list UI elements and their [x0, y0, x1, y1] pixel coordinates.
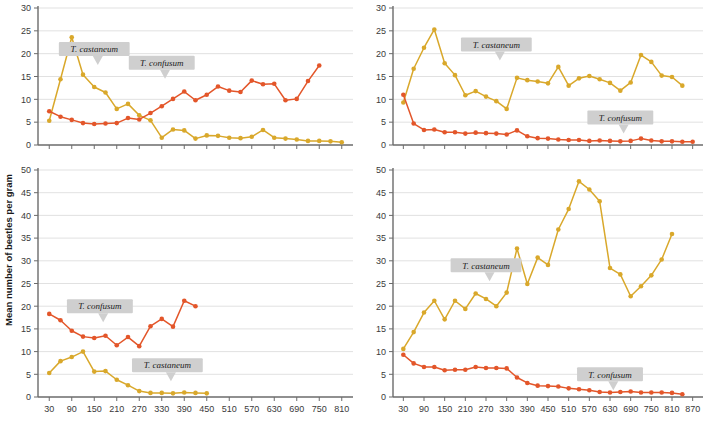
data-point — [504, 107, 509, 112]
x-tick-label: 390 — [177, 404, 192, 414]
data-point — [58, 359, 63, 364]
series-line-castaneum — [403, 29, 682, 108]
y-tick-label: 0 — [26, 392, 31, 402]
x-tick-label: 810 — [334, 404, 349, 414]
data-point — [587, 388, 592, 393]
data-point — [680, 140, 685, 145]
data-point — [649, 390, 654, 395]
data-point — [148, 324, 153, 329]
data-point — [453, 367, 458, 372]
y-tick-label: 30 — [376, 256, 386, 266]
data-point — [47, 119, 52, 124]
data-point — [577, 76, 582, 81]
data-point — [114, 343, 119, 348]
data-point — [92, 336, 97, 341]
data-point — [628, 139, 633, 144]
x-tick-label: 330 — [154, 404, 169, 414]
data-point — [47, 371, 52, 376]
data-point — [422, 365, 427, 370]
data-point — [577, 387, 582, 392]
data-point — [422, 310, 427, 315]
data-point — [422, 45, 427, 50]
y-tick-label: 20 — [376, 302, 386, 312]
data-point — [137, 117, 142, 122]
data-point — [216, 134, 221, 139]
data-point — [283, 98, 288, 103]
y-tick-label: 25 — [376, 279, 386, 289]
y-tick-label: 50 — [376, 165, 386, 175]
data-point — [261, 128, 266, 133]
data-point — [204, 92, 209, 97]
data-point — [484, 131, 489, 136]
data-point — [339, 140, 344, 145]
y-tick-label: 15 — [21, 72, 31, 82]
data-point — [546, 263, 551, 268]
data-point — [628, 294, 633, 299]
data-point — [126, 102, 131, 107]
data-point — [608, 266, 613, 271]
data-point — [597, 199, 602, 204]
data-point — [159, 317, 164, 322]
data-point — [148, 391, 153, 396]
y-tick-label: 0 — [26, 140, 31, 150]
annotation-callout-pointer — [495, 52, 505, 61]
data-point — [577, 138, 582, 143]
data-point — [670, 139, 675, 144]
data-point — [649, 60, 654, 65]
chart-panel-bottom-right: 0510152025303540455030901502102703303904… — [376, 165, 703, 414]
data-point — [193, 304, 198, 309]
data-point — [114, 107, 119, 112]
data-point — [442, 61, 447, 66]
data-point — [411, 66, 416, 71]
data-point — [182, 390, 187, 395]
data-point — [649, 273, 654, 278]
data-point — [159, 391, 164, 396]
chart-panel-top-left: 051015202530T. castaneumT. confusum — [21, 3, 353, 150]
data-point — [515, 128, 520, 133]
x-tick-label: 90 — [67, 404, 77, 414]
y-tick-label: 5 — [381, 117, 386, 127]
data-point — [69, 118, 74, 123]
y-tick-label: 20 — [21, 49, 31, 59]
x-tick-label: 570 — [244, 404, 259, 414]
data-point — [463, 93, 468, 98]
data-point — [193, 98, 198, 103]
data-point — [306, 79, 311, 84]
data-point — [126, 116, 131, 121]
data-point — [204, 391, 209, 396]
data-point — [294, 97, 299, 102]
y-tick-label: 35 — [376, 233, 386, 243]
x-tick-label: 510 — [561, 404, 576, 414]
data-point — [639, 390, 644, 395]
y-tick-label: 50 — [21, 165, 31, 175]
data-point — [659, 73, 664, 78]
y-tick-label: 25 — [376, 26, 386, 36]
data-point — [171, 391, 176, 396]
data-point — [137, 389, 142, 394]
data-point — [494, 131, 499, 136]
annotation-label: T. confusum — [588, 370, 632, 380]
data-point — [272, 135, 277, 140]
data-point — [587, 74, 592, 79]
data-point — [249, 78, 254, 83]
annotation-callout-pointer — [166, 372, 176, 381]
data-point — [317, 63, 322, 68]
x-tick-label: 510 — [222, 404, 237, 414]
data-point — [618, 390, 623, 395]
data-point — [546, 384, 551, 389]
data-point — [597, 138, 602, 143]
data-point — [494, 366, 499, 371]
data-point — [294, 137, 299, 142]
data-point — [515, 375, 520, 380]
data-point — [618, 139, 623, 144]
y-tick-label: 0 — [381, 392, 386, 402]
y-tick-label: 0 — [381, 140, 386, 150]
data-point — [473, 89, 478, 94]
y-tick-label: 35 — [21, 233, 31, 243]
data-point — [535, 136, 540, 141]
data-point — [401, 92, 406, 97]
data-point — [182, 298, 187, 303]
data-point — [411, 361, 416, 366]
data-point — [535, 79, 540, 84]
x-tick-label: 810 — [664, 404, 679, 414]
